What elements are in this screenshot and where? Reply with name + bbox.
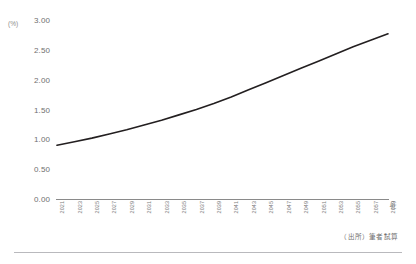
x-axis-tick-label: 2057 [373,201,379,213]
x-axis-tick-label: 2027 [111,201,117,213]
y-axis-tick-label: 2.00 [34,75,50,84]
plot-area [57,20,388,199]
y-axis-tick-label: 1.00 [34,135,50,144]
x-axis-unit-label: (年) [389,201,397,210]
y-axis-tick-label: 1.50 [34,105,50,114]
x-axis-tick-label: 2039 [216,201,222,213]
x-axis-tick-label: 2033 [164,201,170,213]
x-axis-tick-label: 2021 [59,201,65,213]
line-chart-svg [57,20,388,199]
x-axis-tick-label: 2037 [199,201,205,213]
y-axis-tick-label: 2.50 [34,45,50,54]
chart-figure: (%) 3.002.502.001.501.000.500.00 2021202… [0,0,416,264]
x-axis-tick-label: 2049 [303,201,309,213]
y-axis-tick-label: 3.00 [34,16,50,25]
x-axis-tick-label: 2047 [286,201,292,213]
source-note: （出所）筆者試算 [340,231,398,241]
y-axis-tick-label: 0.00 [34,195,50,204]
x-axis-tick-label: 2025 [94,201,100,213]
x-axis-tick-label: 2031 [146,201,152,213]
x-axis-tick-label: 2045 [268,201,274,213]
data-series-line [57,34,388,146]
y-axis-tick-labels: 3.002.502.001.501.000.500.00 [0,0,54,264]
y-axis-tick-label: 0.50 [34,165,50,174]
x-axis-tick-label: 2043 [251,201,257,213]
x-axis-tick-label: 2035 [181,201,187,213]
x-axis-tick-label: 2053 [338,201,344,213]
bottom-divider [14,252,402,253]
x-axis-tick-label: 2029 [129,201,135,213]
x-axis-tick-label: 2051 [321,201,327,213]
x-axis-tick-label: 2055 [355,201,361,213]
x-axis-tick-label: 2041 [233,201,239,213]
x-axis-tick-label: 2023 [77,201,83,213]
x-axis-tick-labels: 2021202320252027202920312033203520372039… [57,200,388,230]
